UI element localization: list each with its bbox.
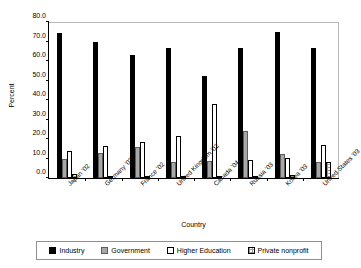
legend-item[interactable]: Private nonprofit: [248, 247, 309, 254]
y-axis-title: Percent: [4, 0, 18, 190]
legend-item[interactable]: Industry: [49, 247, 84, 254]
x-axis-tick-cell: France '02: [121, 181, 157, 219]
bar-group: [267, 22, 303, 178]
bar-groups: [49, 22, 339, 178]
x-axis-tick-cell: United Kingdom '02: [157, 181, 193, 219]
y-axis-tick-label: 20.0: [32, 129, 46, 136]
legend-label: Higher Education: [177, 247, 231, 254]
y-axis-tick-label: 40.0: [32, 90, 46, 97]
bar-industry[interactable]: [166, 48, 171, 178]
legend-item[interactable]: Government: [101, 247, 150, 254]
x-axis-tick-cell: Canada '04: [194, 181, 230, 219]
bar-group: [49, 22, 85, 178]
y-axis-title-text: Percent: [8, 83, 15, 107]
legend-swatch-higher: [167, 247, 174, 254]
bar-industry[interactable]: [311, 48, 316, 178]
y-axis-tick-label: 70.0: [32, 31, 46, 38]
x-axis-tick-cell: Russia '03: [230, 181, 266, 219]
legend-item[interactable]: Higher Education: [167, 247, 231, 254]
y-axis-tick-label: 80.0: [32, 12, 46, 19]
chart-legend: IndustryGovernmentHigher EducationPrivat…: [36, 241, 322, 260]
x-axis-tick-labels: Japan '02Germany '03France '02United Kin…: [48, 181, 339, 219]
x-axis-tick-cell: United States '03: [303, 181, 339, 219]
y-axis-tick-label: 60.0: [32, 51, 46, 58]
bar-higher[interactable]: [176, 136, 181, 178]
y-axis-tick-label: 50.0: [32, 70, 46, 77]
x-axis-tick-cell: Korea '03: [266, 181, 302, 219]
bar-group: [158, 22, 194, 178]
x-axis-tick-cell: Japan '02: [48, 181, 84, 219]
bar-group: [230, 22, 266, 178]
legend-swatch-nonprofit: [248, 247, 255, 254]
y-axis-tick-label: 0.0: [36, 168, 46, 175]
bar-higher[interactable]: [103, 146, 108, 178]
bar-group: [85, 22, 121, 178]
bar-higher[interactable]: [140, 142, 145, 178]
y-axis-tick-label: 30.0: [32, 109, 46, 116]
legend-label: Private nonprofit: [258, 247, 309, 254]
bar-group: [303, 22, 339, 178]
legend-swatch-government: [101, 247, 108, 254]
y-axis-tick-label: 10.0: [32, 148, 46, 155]
plot-area: 0.010.020.030.040.050.060.070.080.0: [48, 22, 339, 179]
bar-group: [122, 22, 158, 178]
legend-swatch-industry: [49, 247, 56, 254]
bar-industry[interactable]: [57, 33, 62, 178]
legend-label: Industry: [59, 247, 84, 254]
x-axis-title: Country: [48, 221, 339, 228]
x-axis-tick-cell: Germany '03: [84, 181, 120, 219]
legend-label: Government: [111, 247, 150, 254]
